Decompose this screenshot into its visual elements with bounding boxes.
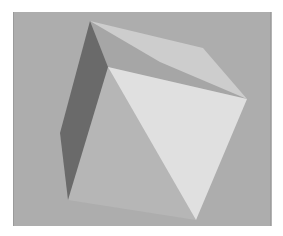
rendered-polyhedron-image — [0, 0, 283, 236]
